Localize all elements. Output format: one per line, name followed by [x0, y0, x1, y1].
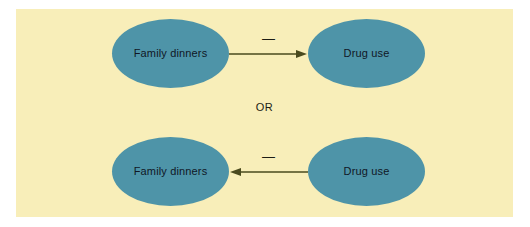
connector-top: —	[229, 19, 308, 88]
node-label: Family dinners	[134, 48, 208, 59]
diagram-panel: Family dinners — Drug use OR Family dinn…	[16, 9, 513, 217]
arrow-left-icon	[229, 137, 308, 206]
diagram-row-top: Family dinners — Drug use	[16, 19, 513, 89]
node-label: Drug use	[344, 166, 390, 177]
node-label: Family dinners	[134, 166, 208, 177]
arrow-right-icon	[229, 19, 308, 88]
or-separator-label: OR	[16, 101, 513, 113]
node-drug-use-top: Drug use	[308, 19, 425, 88]
node-family-dinners-top: Family dinners	[112, 19, 229, 88]
diagram-figure: Family dinners — Drug use OR Family dinn…	[0, 0, 530, 227]
connector-bottom: —	[229, 137, 308, 206]
node-label: Drug use	[344, 48, 390, 59]
node-family-dinners-bottom: Family dinners	[112, 137, 229, 206]
node-drug-use-bottom: Drug use	[308, 137, 425, 206]
diagram-row-bottom: Family dinners — Drug use	[16, 137, 513, 207]
